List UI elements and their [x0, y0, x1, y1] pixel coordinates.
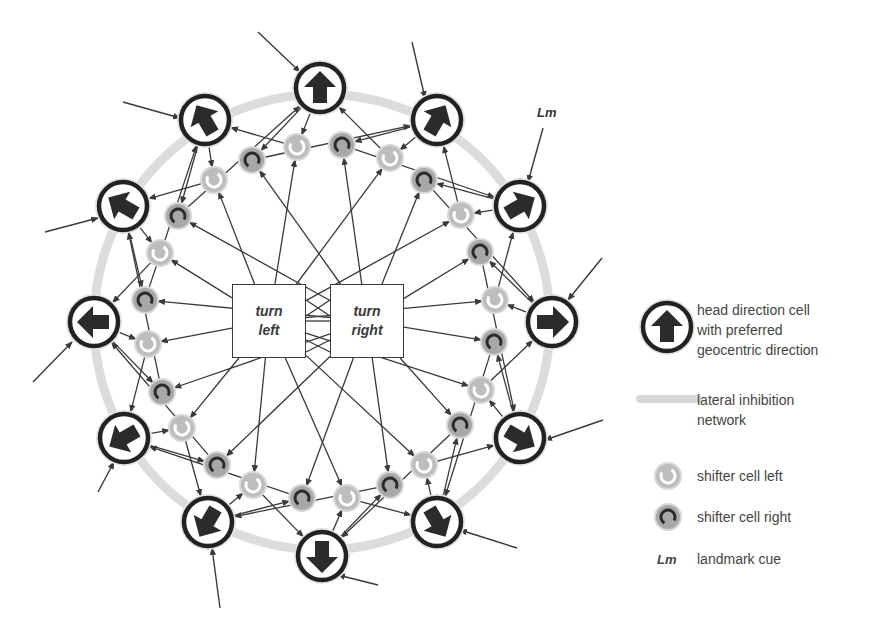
landmark-label: Lm [537, 105, 557, 120]
head-direction-cell-legend [639, 299, 695, 355]
shifter-cell-right [148, 378, 176, 406]
shifter-cell-right [164, 202, 192, 230]
shifter-cell-right [131, 286, 159, 314]
legend-head-direction-label: head direction cell with preferred geoce… [697, 300, 818, 360]
legend-shifter-left-label: shifter cell left [697, 466, 783, 486]
shifter-cell-left [654, 462, 682, 490]
shifter-cell-right [376, 471, 404, 499]
turn-right-box: turn right [330, 284, 404, 358]
head-direction-cell-east-south-east [492, 410, 548, 466]
head-direction-cell-south [294, 528, 350, 584]
shifter-cell-left [134, 330, 162, 358]
shifter-cell-right [446, 411, 474, 439]
lateral-inhibition-ring [94, 94, 550, 550]
head-direction-cell-south-east [409, 494, 465, 550]
shifter-cell-right [238, 146, 266, 174]
head-direction-cell-west-north-west [95, 178, 151, 234]
head-direction-cell-north-east [409, 92, 465, 148]
shifter-cell-right [480, 328, 508, 356]
head-direction-cell-north [292, 60, 348, 116]
shifter-cell-left [481, 286, 509, 314]
shifter-cell-right [288, 484, 316, 512]
shifter-cell-right [410, 166, 438, 194]
legend-landmark-symbol: Lm [657, 550, 677, 570]
connections [112, 106, 534, 537]
shifter-cell-left [467, 376, 495, 404]
legend-landmark-label: landmark cue [697, 549, 781, 569]
shifter-cell-left [376, 144, 404, 172]
shifter-cell-left [168, 414, 196, 442]
head-direction-cells [66, 60, 580, 584]
head-direction-cell-north-west [177, 92, 233, 148]
shifter-cell-left [447, 201, 475, 229]
head-direction-cell-east-north-east [492, 178, 548, 234]
shifter-cell-right [654, 503, 682, 531]
shifter-cell-right [203, 451, 231, 479]
shifter-cell-left [410, 451, 438, 479]
shifter-cell-right [466, 238, 494, 266]
shifter-cell-left [200, 166, 228, 194]
turn-right-line2: right [351, 321, 382, 340]
turn-left-box: turn left [232, 284, 306, 358]
head-direction-cell-south-west [180, 494, 236, 550]
legend-lateral-inhibition-label: lateral inhibition network [697, 390, 794, 430]
legend-icons [639, 299, 697, 531]
turn-left-line2: left [259, 321, 280, 340]
shifter-cell-left [283, 133, 311, 161]
turn-right-line1: turn [353, 302, 380, 321]
turn-left-line1: turn [255, 302, 282, 321]
head-direction-cell-west-south-west [96, 410, 152, 466]
shifter-cell-left [146, 239, 174, 267]
shifter-cell-left [239, 471, 267, 499]
shifter-cell-left [333, 484, 361, 512]
head-direction-cell-east [524, 294, 580, 350]
head-direction-cell-west [66, 294, 122, 350]
shifter-cell-right [328, 131, 356, 159]
legend-shifter-right-label: shifter cell right [697, 507, 791, 527]
